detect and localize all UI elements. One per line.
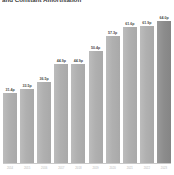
x-tick-label: 2016	[37, 166, 51, 174]
bar	[106, 36, 120, 163]
x-axis-line	[3, 163, 171, 164]
bar	[71, 64, 85, 163]
bar	[54, 64, 68, 163]
bar-value-label: 61.6p	[125, 22, 134, 26]
x-tick-label: 2022	[140, 166, 154, 174]
x-tick-label: 2020	[106, 166, 120, 174]
bar-column: 31.4p	[3, 8, 17, 163]
bar-column: 33.5p	[20, 8, 34, 163]
bar	[157, 21, 171, 163]
bar-value-label: 33.5p	[23, 84, 32, 88]
bar-column: 44.9p	[71, 8, 85, 163]
x-tick-label: 2017	[54, 166, 68, 174]
bar-column: 44.9p	[54, 8, 68, 163]
x-tick-label: 2023	[157, 166, 171, 174]
bar-chart: and Constant Amortisation 31.4p33.5p36.5…	[0, 0, 174, 175]
x-tick-label: 2014	[3, 166, 17, 174]
bar-column: 57.3p	[106, 8, 120, 163]
bar-column: 36.5p	[37, 8, 51, 163]
bar-column: 61.6p	[123, 8, 137, 163]
x-tick-label: 2015	[20, 166, 34, 174]
bar-column: 64.0p	[157, 8, 171, 163]
bar	[89, 51, 103, 163]
bar	[3, 93, 17, 163]
bar-value-label: 31.4p	[5, 88, 14, 92]
x-tick-label: 2019	[89, 166, 103, 174]
bar	[140, 26, 154, 163]
bar-column: 50.4p	[89, 8, 103, 163]
bar-series: 31.4p33.5p36.5p44.9p44.9p50.4p57.3p61.6p…	[3, 8, 171, 163]
bar-value-label: 50.4p	[91, 46, 100, 50]
x-tick-label: 2018	[71, 166, 85, 174]
bar	[37, 82, 51, 163]
bar	[123, 27, 137, 163]
bar-value-label: 64.0p	[159, 16, 168, 20]
bar-value-label: 57.3p	[108, 31, 117, 35]
x-tick-label: 2021	[123, 166, 137, 174]
x-axis-labels: 2014201520162017201820192020202120222023	[3, 166, 171, 174]
plot-area: 31.4p33.5p36.5p44.9p44.9p50.4p57.3p61.6p…	[3, 8, 171, 163]
bar-value-label: 44.9p	[74, 59, 83, 63]
bar-value-label: 36.5p	[40, 77, 49, 81]
bar-value-label: 44.9p	[57, 59, 66, 63]
bar-column: 61.9p	[140, 8, 154, 163]
chart-title: and Constant Amortisation	[2, 0, 172, 3]
bar-value-label: 61.9p	[142, 21, 151, 25]
bar	[20, 89, 34, 163]
